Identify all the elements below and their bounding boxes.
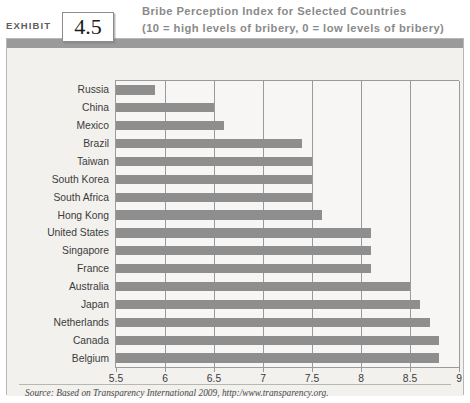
bar-row: France [116, 260, 459, 278]
x-axis-tick-label: 8 [358, 373, 364, 384]
x-axis-tick-label: 5.5 [109, 373, 123, 384]
chart-title: Bribe Perception Index for Selected Coun… [142, 3, 468, 36]
category-label: Canada [73, 335, 116, 346]
category-label: Hong Kong [57, 210, 116, 221]
x-axis-tick [459, 367, 460, 372]
x-axis-tick-label: 6 [162, 373, 168, 384]
bar [116, 175, 312, 184]
bar-row: Japan [116, 296, 459, 314]
x-axis-tick-label: 6.5 [207, 373, 221, 384]
category-label: Russia [78, 84, 116, 95]
bar-row: Belgium [116, 349, 459, 367]
bar [116, 300, 420, 309]
x-axis-tick [116, 367, 117, 372]
x-axis-tick [312, 367, 313, 372]
exhibit-number: 4.5 [74, 16, 102, 38]
bar-row: Brazil [116, 135, 459, 153]
bar-row: Mexico [116, 117, 459, 135]
x-axis-tick-label: 8.5 [403, 373, 417, 384]
bar-row: Australia [116, 278, 459, 296]
category-label: Netherlands [53, 317, 116, 328]
panel-body: RussiaChinaMexicoBrazilTaiwanSouth Korea… [7, 48, 463, 396]
x-axis-tick-label: 7 [260, 373, 266, 384]
category-label: Brazil [83, 138, 116, 149]
bar-row: Netherlands [116, 313, 459, 331]
bar [116, 353, 439, 362]
x-axis-tick [410, 367, 411, 372]
exhibit-figure: EXHIBIT 4.5 Bribe Perception Index for S… [0, 0, 470, 403]
bar-row: Canada [116, 331, 459, 349]
chart-panel: RussiaChinaMexicoBrazilTaiwanSouth Korea… [6, 38, 464, 395]
bar-row: Russia [116, 81, 459, 99]
bar [116, 210, 322, 219]
bar-row: United States [116, 224, 459, 242]
category-label: Australia [69, 281, 116, 292]
bar [116, 193, 312, 202]
category-label: Mexico [76, 120, 116, 131]
category-label: China [82, 102, 116, 113]
bar-row: Taiwan [116, 153, 459, 171]
x-axis-tick-label: 9 [456, 373, 462, 384]
source-note: Source: Based on Transparency Internatio… [25, 388, 329, 398]
category-label: Taiwan [77, 156, 116, 167]
bar-row: South Africa [116, 188, 459, 206]
chart-title-line1: Bribe Perception Index for Selected Coun… [142, 3, 468, 20]
exhibit-header: EXHIBIT 4.5 Bribe Perception Index for S… [0, 0, 470, 40]
bar [116, 85, 155, 94]
exhibit-label: EXHIBIT [6, 20, 51, 31]
bar [116, 282, 410, 291]
category-label: Belgium [72, 353, 116, 364]
bar-row: Singapore [116, 242, 459, 260]
exhibit-number-box: 4.5 [62, 12, 114, 42]
bar-row: South Korea [116, 170, 459, 188]
category-label: United States [47, 227, 116, 238]
bar [116, 139, 302, 148]
plot-area: RussiaChinaMexicoBrazilTaiwanSouth Korea… [115, 80, 459, 368]
bar [116, 246, 371, 255]
category-label: Japan [81, 299, 116, 310]
bar [116, 228, 371, 237]
category-label: South Africa [53, 192, 116, 203]
bar [116, 336, 439, 345]
x-axis-tick-label: 7.5 [305, 373, 319, 384]
category-label: South Korea [52, 174, 116, 185]
bar-row: Hong Kong [116, 206, 459, 224]
x-axis-tick [165, 367, 166, 372]
bar [116, 121, 224, 130]
x-axis-tick [214, 367, 215, 372]
source-divider [19, 384, 451, 385]
x-axis-tick [361, 367, 362, 372]
category-label: France [77, 263, 116, 274]
gridline [459, 81, 460, 367]
bar [116, 157, 312, 166]
x-axis-tick [263, 367, 264, 372]
bar [116, 264, 371, 273]
category-label: Singapore [62, 245, 116, 256]
chart-title-line2: (10 = high levels of bribery, 0 = low le… [142, 20, 468, 37]
bar-row: China [116, 99, 459, 117]
bar [116, 318, 430, 327]
bar [116, 103, 214, 112]
